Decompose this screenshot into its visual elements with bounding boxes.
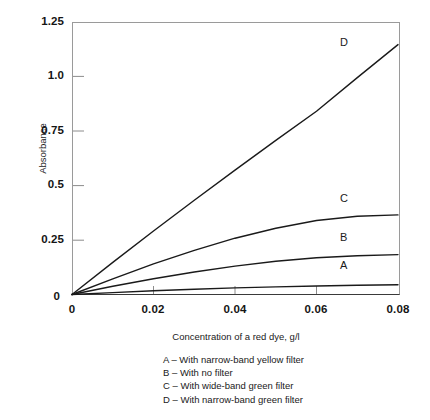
y-axis-title: Absorbance [37,89,48,209]
curve-label-c: C [340,192,348,204]
curve-label-a: A [340,259,347,271]
cropped-caption [8,411,428,420]
legend: A – With narrow-band yellow filter B – W… [163,353,413,406]
legend-item-c: C – With wide-band green filter [163,379,413,392]
figure-container: 1.25 1.0 0.75 0.5 0.25 0 0 0.02 0.04 0.0… [0,0,430,420]
curve-d [72,45,398,295]
legend-item-a: A – With narrow-band yellow filter [163,353,413,366]
curve-label-b: B [340,231,347,243]
legend-item-d: D – With narrow-band green filter [163,393,413,406]
y-tick-marks [73,76,84,240]
curve-c [72,215,398,295]
curve-label-d: D [340,36,348,48]
legend-item-b: B – With no filter [163,366,413,379]
x-axis-title: Concentration of a red dye, g/l [72,331,400,342]
